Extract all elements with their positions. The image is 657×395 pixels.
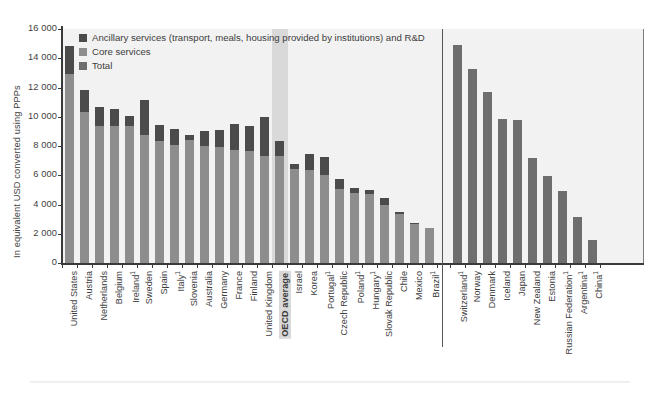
bar (528, 158, 537, 263)
x-axis-label: France (234, 271, 244, 300)
x-axis-label: Korea (309, 271, 319, 296)
bar (410, 223, 419, 263)
bar (588, 240, 597, 263)
bar (483, 92, 492, 263)
x-axis-tick-mark (287, 263, 288, 268)
x-axis-tick-mark (600, 263, 601, 268)
x-axis-label: Norway (472, 271, 482, 302)
bar (290, 164, 299, 263)
x-axis-tick-mark (407, 263, 408, 268)
bar-segment-ancillary-services (140, 100, 149, 135)
bar-segment-total (573, 217, 582, 263)
y-axis-tick-label: 0 (52, 257, 57, 267)
bar (425, 228, 434, 263)
x-axis-tick-mark (465, 263, 466, 268)
bar-segment-ancillary-services (410, 223, 419, 224)
x-axis-tick-mark (585, 263, 586, 268)
bar (320, 157, 329, 263)
x-axis-label: Spain (159, 271, 169, 295)
x-axis-label: Sweden (144, 271, 154, 304)
x-axis-tick-mark (317, 263, 318, 268)
bar-segment-core-services (275, 156, 284, 263)
x-axis-label: Germany (219, 271, 229, 309)
x-axis-label: Iceland (502, 271, 512, 301)
x-axis-label-footnote: 1 (324, 271, 331, 275)
x-axis-label: Mexico (414, 271, 424, 300)
x-axis-label: Switzerland1 (457, 271, 469, 322)
x-axis-label: Belgium (114, 271, 124, 304)
bar (155, 125, 164, 263)
bar-segment-ancillary-services (65, 46, 74, 75)
x-axis-tick-mark (212, 263, 213, 268)
x-axis-label: China1 (592, 271, 604, 299)
x-axis-tick-mark (540, 263, 541, 268)
x-axis-tick-mark (437, 263, 438, 268)
bar-segment-core-services (110, 126, 119, 263)
bar-segment-ancillary-services (80, 90, 89, 112)
bar-segment-core-services (185, 140, 194, 263)
bar (215, 130, 224, 263)
x-axis-tick-mark (77, 263, 78, 268)
x-axis-tick-mark (107, 263, 108, 268)
bar-segment-core-services (410, 224, 419, 263)
y-axis-tick-label: 14 000 (28, 52, 57, 62)
bar (200, 131, 209, 263)
bar (558, 191, 567, 263)
bar (543, 176, 552, 263)
bar-segment-core-services (305, 170, 314, 263)
bar-segment-core-services (425, 228, 434, 263)
x-axis-label: OECD average (279, 271, 291, 339)
bar-segment-total (588, 240, 597, 263)
bar-segment-core-services (200, 146, 209, 263)
x-axis-label: Netherlands (99, 271, 109, 321)
bar-segment-total (513, 120, 522, 263)
x-axis-label: Israel (294, 271, 304, 294)
x-axis-tick-mark (510, 263, 511, 268)
legend-label-core: Core services (92, 46, 151, 57)
x-axis-tick-mark (347, 263, 348, 268)
x-axis-tick-mark (422, 263, 423, 268)
bar (65, 46, 74, 263)
chart-legend: Ancillary services (transport, meals, ho… (79, 31, 425, 73)
bar (305, 154, 314, 263)
bar (140, 100, 149, 263)
x-axis-label: Chile (399, 271, 409, 292)
bar (468, 69, 477, 263)
bar-segment-total (543, 176, 552, 263)
y-axis-tick-label: 10 000 (28, 111, 57, 121)
x-axis-label: Japan (517, 271, 527, 296)
bar-segment-ancillary-services (155, 125, 164, 141)
bar-segment-ancillary-services (215, 130, 224, 147)
legend-label-ancillary: Ancillary services (transport, meals, ho… (92, 32, 425, 43)
legend-item-total: Total (79, 59, 425, 72)
bar-segment-ancillary-services (95, 107, 104, 127)
bar-segment-ancillary-services (110, 109, 119, 126)
bar-segment-total (483, 92, 492, 263)
x-axis-label-footnote: 1 (354, 271, 361, 275)
x-axis-label: Slovenia (189, 271, 199, 306)
x-axis-label: Hungary1 (369, 271, 381, 309)
legend-label-total: Total (92, 60, 112, 71)
bar (125, 116, 134, 263)
x-axis-tick-mark (302, 263, 303, 268)
footer-divider (30, 381, 630, 383)
bar (365, 190, 374, 263)
bar-segment-ancillary-services (230, 124, 239, 150)
x-axis-tick-mark (62, 263, 63, 268)
x-axis-label: Portugal1 (324, 271, 336, 309)
bar-segment-core-services (320, 175, 329, 263)
legend-item-ancillary: Ancillary services (transport, meals, ho… (79, 31, 425, 44)
x-axis-tick-mark (570, 263, 571, 268)
bar-segment-core-services (95, 126, 104, 263)
bar-segment-core-services (260, 156, 269, 263)
x-axis-tick-mark (167, 263, 168, 268)
bar-segment-core-services (350, 193, 359, 263)
bar-segment-ancillary-services (350, 188, 359, 193)
bar-segment-total (498, 119, 507, 263)
bar-segment-core-services (290, 169, 299, 263)
bar-segment-ancillary-services (260, 117, 269, 156)
bar-segment-core-services (65, 74, 74, 263)
x-axis-tick-mark (495, 263, 496, 268)
bar-segment-ancillary-services (380, 198, 389, 205)
x-axis-label-footnote: 1 (592, 271, 599, 275)
